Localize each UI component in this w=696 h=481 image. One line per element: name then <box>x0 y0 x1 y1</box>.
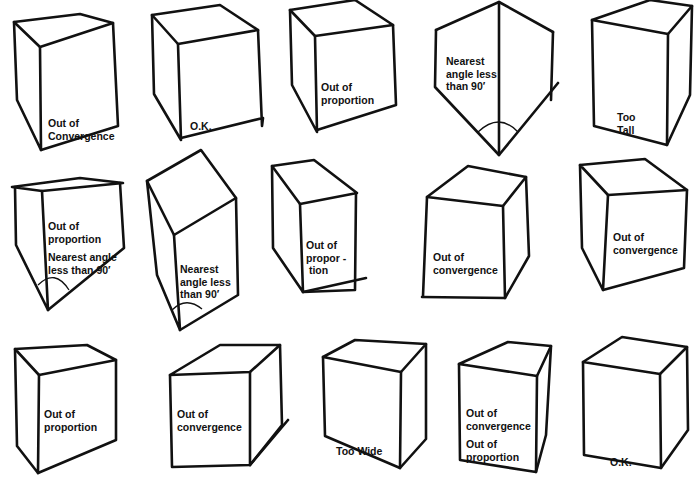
box-label-12: Out ofconvergence <box>177 383 242 446</box>
box-label-14: Out ofconvergenceOut ofproportion <box>466 382 531 476</box>
box-label-9: Out ofconvergence <box>433 226 498 289</box>
box-label-13: Too Wide <box>336 420 382 470</box>
box-label-7: Nearestangle lessthan 90′ <box>180 238 231 313</box>
box-label-3: Out ofproportion <box>321 56 374 119</box>
box-label-8: Out ofpropor - tion <box>306 214 346 289</box>
box-label-11: Out ofproportion <box>44 383 97 446</box>
box-label-10: Out ofconvergence <box>613 206 678 269</box>
box-label-2: O.K. <box>190 95 212 145</box>
box-label-5: TooTall <box>617 86 635 149</box>
box-label-15: O.K. <box>610 431 632 481</box>
box-label-1: Out ofConvergence <box>48 92 115 155</box>
box-sketch-5 <box>592 0 692 145</box>
box-label-4: Nearestangle lessthan 90′ <box>446 30 497 105</box>
box-label-6: Out ofproportionNearest angleless than 9… <box>48 195 117 289</box>
box-sketch-15 <box>583 337 688 468</box>
